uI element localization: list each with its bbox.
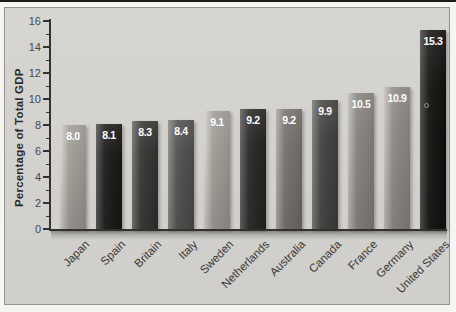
bar-value-label: 10.9	[384, 92, 410, 104]
bar-chart: 02468101214168.0Japan8.1Spain8.3Britain8…	[5, 8, 449, 304]
y-axis-major-tick	[43, 46, 51, 48]
bar-united-states: 15.3	[420, 30, 446, 229]
y-axis-minor-tick	[46, 216, 51, 217]
bar-value-label: 9.1	[204, 116, 230, 128]
scan-speck	[424, 103, 429, 108]
y-axis-minor-tick	[46, 112, 51, 113]
bar-value-label: 8.0	[60, 130, 86, 142]
bar-value-label: 15.3	[420, 35, 446, 47]
category-label-france: France	[346, 238, 380, 272]
bar-netherlands: 9.2	[240, 109, 266, 229]
bar-france: 10.5	[348, 93, 374, 230]
bar-japan: 8.0	[60, 125, 86, 229]
y-axis-tick-label: 2	[13, 197, 41, 210]
bar-value-label: 10.5	[348, 98, 374, 110]
y-axis-minor-tick	[46, 138, 51, 139]
y-axis-minor-tick	[46, 190, 51, 191]
bar-floor-shadow	[51, 231, 447, 240]
bar-canada: 9.9	[312, 100, 338, 229]
y-axis-tick-label: 8	[13, 119, 41, 132]
chart-panel: Percentage of Total GDP 02468101214168.0…	[4, 7, 450, 305]
y-axis-tick-label: 6	[13, 145, 41, 158]
bar-germany: 10.9	[384, 87, 410, 229]
y-axis-major-tick	[43, 124, 51, 126]
bar-value-label: 9.2	[240, 114, 266, 126]
y-axis-major-tick	[43, 150, 51, 152]
y-axis-tick-label: 4	[13, 171, 41, 184]
bar-value-label: 9.2	[276, 114, 302, 126]
category-label-australia: Australia	[267, 238, 307, 278]
y-axis-tick-label: 12	[13, 67, 41, 80]
category-label-italy: Italy	[176, 238, 199, 261]
y-axis-tick-label: 14	[13, 41, 41, 54]
y-axis-minor-tick	[46, 34, 51, 35]
y-axis-tick-label: 0	[13, 223, 41, 236]
y-axis-tick-label: 16	[13, 15, 41, 28]
bar-britain: 8.3	[132, 121, 158, 229]
bar-italy: 8.4	[168, 120, 194, 229]
y-axis-minor-tick	[46, 60, 51, 61]
bar-sweden: 9.1	[204, 111, 230, 229]
y-axis-major-tick	[43, 176, 51, 178]
y-axis-minor-tick	[46, 86, 51, 87]
y-axis-minor-tick	[46, 164, 51, 165]
bar-value-label: 8.3	[132, 126, 158, 138]
category-label-spain: Spain	[98, 238, 127, 267]
scanned-figure: Percentage of Total GDP 02468101214168.0…	[0, 0, 456, 312]
category-label-japan: Japan	[61, 238, 92, 269]
y-axis-major-tick	[43, 98, 51, 100]
category-label-britain: Britain	[132, 238, 164, 270]
bar-spain: 8.1	[96, 124, 122, 229]
bar-value-label: 9.9	[312, 105, 338, 117]
bar-value-label: 8.4	[168, 125, 194, 137]
category-label-canada: Canada	[307, 238, 344, 275]
bar-value-label: 8.1	[96, 129, 122, 141]
y-axis-major-tick	[43, 72, 51, 74]
page-top-rule	[0, 0, 456, 2]
y-axis-major-tick	[43, 202, 51, 204]
bar-australia: 9.2	[276, 109, 302, 229]
y-axis-major-tick	[43, 20, 51, 22]
y-axis-tick-label: 10	[13, 93, 41, 106]
